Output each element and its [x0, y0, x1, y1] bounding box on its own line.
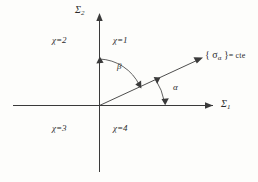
vertical-axis-subscript: 2: [81, 9, 85, 17]
vertical-axis: [96, 13, 102, 172]
ray-arrowhead: [194, 57, 204, 63]
sigma-subscript: α: [218, 54, 222, 62]
quadrant-label-2: χ=2: [52, 36, 67, 45]
diagram-svg: [0, 0, 258, 182]
horizontal-axis-arrowhead: [205, 102, 213, 108]
vertical-axis-label: Σ2: [75, 5, 84, 17]
horizontal-axis-label: Σ1: [221, 99, 230, 111]
figure-canvas: Σ2 Σ1 χ=2 χ=1 χ=3 χ=4 β α { σα }= cte: [0, 0, 258, 182]
beta-arc-arrow-start: [96, 57, 103, 64]
beta-angle-label: β: [117, 62, 121, 71]
ray-line: [100, 59, 201, 106]
brace-open: {: [205, 49, 210, 60]
horizontal-axis-subscript: 1: [227, 103, 231, 111]
quadrant-label-1: χ=1: [113, 36, 128, 45]
vertical-axis-arrowhead: [96, 13, 102, 21]
horizontal-axis: [13, 102, 213, 108]
alpha-arc-arrow-start: [154, 77, 161, 84]
alpha-angle-indicator: [154, 77, 169, 105]
alpha-arc-arrow-end: [162, 98, 169, 105]
equals-cte: = cte: [229, 51, 246, 60]
constant-stress-ray: [100, 57, 204, 105]
quadrant-label-3: χ=3: [52, 124, 67, 133]
quadrant-label-4: χ=4: [113, 124, 128, 133]
alpha-angle-label: α: [173, 83, 178, 92]
constant-stress-ray-label: { σα }= cte: [205, 50, 246, 62]
